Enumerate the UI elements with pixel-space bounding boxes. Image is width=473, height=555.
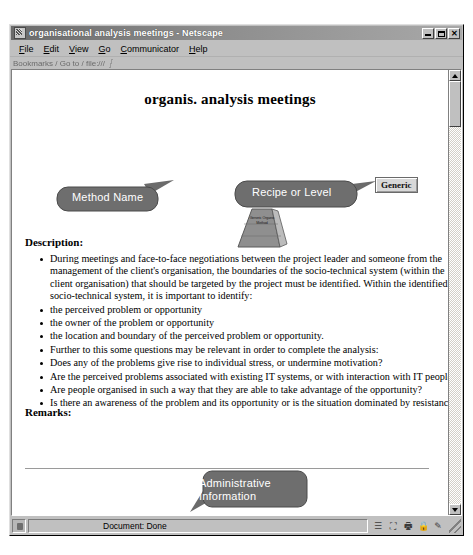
page-title: organis. analysis meetings: [12, 91, 448, 108]
menu-item-communicator[interactable]: Communicator: [115, 43, 184, 55]
status-text: Document: Done: [103, 521, 167, 531]
scroll-up-button[interactable]: [449, 70, 461, 81]
callout-recipe-or-level: Recipe or Level: [234, 175, 384, 219]
menu-item-view[interactable]: View: [64, 43, 93, 55]
callout-administrative-information: Administrative Information: [184, 470, 324, 515]
callout-recipe-or-level-text: Recipe or Level: [252, 186, 331, 199]
vertical-scrollbar[interactable]: [448, 70, 461, 515]
security-icon[interactable]: 🔒: [418, 521, 428, 531]
security-lock-icon[interactable]: [12, 519, 26, 533]
list-item: Is there an awareness of the problem and…: [50, 397, 448, 409]
list-item: Are the perceived problems associated wi…: [50, 371, 448, 383]
menu-item-go-rest: o: [105, 44, 110, 54]
list-item: During meetings and face-to-face negotia…: [50, 253, 448, 303]
list-item: Are people organised in such a way that …: [50, 384, 448, 396]
window-title: organisational analysis meetings - Netsc…: [29, 28, 422, 38]
menu-item-edit-rest: dit: [50, 44, 60, 54]
status-bar: Document: Done ☰ ⛶ 🖶 🔒 ✎: [11, 517, 462, 534]
menu-item-help[interactable]: Help: [184, 43, 213, 55]
menu-item-help-rest: elp: [195, 44, 207, 54]
scrollbar-track[interactable]: [449, 81, 461, 504]
horizontal-divider: [25, 468, 429, 469]
window-titlebar[interactable]: organisational analysis meetings - Netsc…: [11, 26, 462, 40]
menu-item-go[interactable]: Go: [93, 43, 115, 55]
chevron-down-icon: [452, 508, 458, 512]
list-item: the location and boundary of the perceiv…: [50, 330, 448, 342]
remarks-heading: Remarks:: [25, 406, 71, 418]
component-bar: ☰ ⛶ 🖶 🔒 ✎: [370, 519, 447, 533]
location-input[interactable]: Bookmarks / Go to / file:///: [13, 59, 105, 68]
callout-administrative-information-text: Administrative Information: [199, 477, 271, 503]
scroll-down-button[interactable]: [449, 504, 461, 515]
list-item: the perceived problem or opportunity: [50, 304, 448, 316]
location-bar[interactable]: Bookmarks / Go to / file:///: [10, 57, 463, 69]
channels-icon[interactable]: ⛶: [388, 521, 398, 531]
netscape-document-icon: [14, 27, 26, 39]
signature-icon[interactable]: ✎: [433, 521, 443, 531]
content-frame: organis. analysis meetings Generic Gener…: [11, 69, 462, 516]
list-item: Further to this some questions may be re…: [50, 344, 448, 356]
callout-method-name-text: Method Name: [72, 191, 143, 204]
callout-method-name: Method Name: [56, 180, 186, 220]
list-item: Does any of the problems give rise to in…: [50, 357, 448, 369]
browser-window: organisational analysis meetings - Netsc…: [9, 24, 464, 536]
location-tab-edge: [106, 59, 116, 68]
close-button[interactable]: ✕: [448, 28, 460, 39]
description-bullet-list: During meetings and face-to-face negotia…: [34, 253, 448, 411]
scrollbar-thumb[interactable]: [449, 81, 461, 127]
chevron-up-icon: [452, 74, 458, 78]
minimize-button[interactable]: [422, 28, 434, 39]
resize-grip[interactable]: [449, 519, 461, 533]
document-page: organis. analysis meetings Generic Gener…: [12, 70, 448, 515]
list-icon[interactable]: ☰: [373, 521, 383, 531]
menu-item-view-rest: iew: [75, 44, 89, 54]
menu-item-file-rest: ile: [25, 44, 34, 54]
status-message-area: Document: Done: [28, 519, 368, 533]
maximize-button[interactable]: [435, 28, 447, 39]
menu-item-communicator-rest: ommunicator: [127, 44, 179, 54]
close-icon: ✕: [449, 29, 459, 38]
window-controls: ✕: [422, 28, 460, 39]
menu-bar: File Edit View Go Communicator Help: [10, 41, 463, 57]
menu-item-edit[interactable]: Edit: [39, 43, 65, 55]
printer-icon[interactable]: 🖶: [403, 521, 413, 531]
description-heading: Description:: [25, 236, 83, 248]
menu-item-file[interactable]: File: [14, 43, 39, 55]
list-item: the owner of the problem or opportunity: [50, 317, 448, 329]
